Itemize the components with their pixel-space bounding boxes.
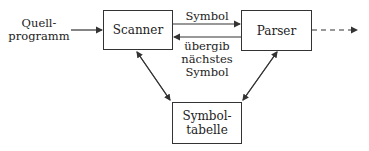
input-label: Quell- programm <box>8 17 70 43</box>
request-edge-label: übergib nächstes Symbol <box>172 40 242 79</box>
parser-node: Parser <box>241 10 312 51</box>
scanner-node: Scanner <box>103 10 173 50</box>
symbol-edge-label: Symbol <box>176 10 238 23</box>
symbol-table-node: Symbol- tabelle <box>172 102 242 144</box>
